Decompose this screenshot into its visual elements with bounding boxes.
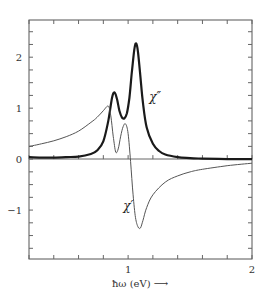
x-tick-label: 2 bbox=[249, 264, 255, 275]
chi-real-curve bbox=[29, 106, 252, 229]
chi-imag-curve bbox=[29, 43, 252, 159]
plot-frame bbox=[29, 20, 252, 259]
y-tick-label: −1 bbox=[7, 205, 22, 216]
chi-imag-label: χ″ bbox=[148, 90, 161, 104]
axis-ticks bbox=[29, 20, 252, 259]
y-tick-label: 2 bbox=[16, 52, 22, 63]
curves bbox=[29, 43, 252, 228]
x-tick-label: 1 bbox=[125, 264, 131, 275]
y-tick-label: 0 bbox=[16, 154, 22, 165]
chi-real-label: χ′ bbox=[122, 199, 133, 213]
chart: 12210−1 χ″χ′ ħω (eV) ⟶ bbox=[0, 0, 266, 303]
x-axis-label: ħω (eV) ⟶ bbox=[112, 278, 168, 289]
y-tick-label: 1 bbox=[16, 103, 22, 114]
